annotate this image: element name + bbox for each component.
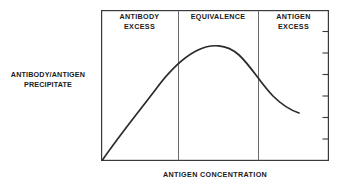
precipitin-curve-figure: ANTIBODY/ANTIGEN PRECIPITATE [0, 0, 342, 186]
frame-rect [102, 11, 329, 161]
zone-label-antigen-excess: ANTIGEN EXCESS [258, 12, 329, 31]
plot-svg [101, 10, 329, 161]
precipitin-curve [103, 46, 300, 160]
plot-area [101, 10, 329, 161]
axis-frame [102, 11, 329, 161]
right-axis-ticks [323, 32, 329, 140]
y-axis-label: ANTIBODY/ANTIGEN PRECIPITATE [0, 70, 96, 89]
x-axis-label: ANTIGEN CONCENTRATION [101, 170, 329, 179]
zone-label-equivalence: EQUIVALENCE [178, 12, 258, 22]
zone-label-antibody-excess: ANTIBODY EXCESS [101, 12, 178, 31]
zone-dividers [179, 11, 259, 161]
